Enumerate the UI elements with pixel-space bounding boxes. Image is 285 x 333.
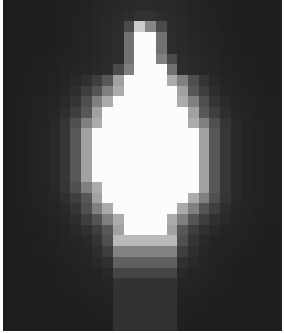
pixel-cell [188, 203, 199, 214]
pixel-cell [274, 310, 283, 321]
pixel-cell [17, 193, 28, 204]
pixel-cell [156, 107, 167, 118]
pixel-cell [263, 289, 274, 300]
pixel-cell [124, 107, 135, 118]
pixel-cell [252, 118, 263, 129]
pixel-cell [102, 11, 113, 22]
pixel-cell [81, 11, 92, 22]
pixel-cell [263, 0, 274, 11]
pixel-cell [27, 225, 38, 236]
pixel-cell [167, 268, 178, 279]
pixel-cell [188, 75, 199, 86]
pixel-cell [49, 235, 60, 246]
pixel-cell [27, 321, 38, 331]
pixel-cell [177, 54, 188, 65]
pixel-cell [113, 118, 124, 129]
pixel-cell [6, 225, 17, 236]
pixel-cell [188, 193, 199, 204]
pixel-cell [188, 118, 199, 129]
pixel-cell [134, 11, 145, 22]
pixel-cell [231, 54, 242, 65]
pixel-cell [145, 43, 156, 54]
pixel-cell [167, 128, 178, 139]
pixel-cell [124, 32, 135, 43]
pixel-cell [145, 21, 156, 32]
pixel-cell [60, 118, 71, 129]
pixel-cell [70, 11, 81, 22]
pixel-cell [49, 193, 60, 204]
pixel-cell [92, 257, 103, 268]
pixel-cell [49, 225, 60, 236]
pixel-cell [274, 203, 283, 214]
pixel-cell [167, 75, 178, 86]
pixel-cell [27, 257, 38, 268]
pixel-cell [263, 11, 274, 22]
pixel-cell [231, 86, 242, 97]
pixel-cell [199, 150, 210, 161]
pixel-cell [167, 257, 178, 268]
pixel-cell [252, 96, 263, 107]
pixel-cell [274, 193, 283, 204]
pixel-cell [199, 32, 210, 43]
pixel-cell [156, 300, 167, 311]
pixel-cell [27, 43, 38, 54]
pixel-cell [188, 64, 199, 75]
pixel-cell [49, 246, 60, 257]
pixel-cell [199, 246, 210, 257]
pixel-cell [177, 150, 188, 161]
pixel-cell [102, 289, 113, 300]
pixel-cell [274, 43, 283, 54]
pixel-cell [231, 64, 242, 75]
pixel-cell [60, 235, 71, 246]
pixel-cell [92, 246, 103, 257]
pixel-cell [177, 289, 188, 300]
pixel-cell [70, 193, 81, 204]
pixel-cell [134, 54, 145, 65]
pixel-cell [231, 246, 242, 257]
pixel-cell [92, 289, 103, 300]
pixel-cell [113, 193, 124, 204]
pixel-cell [38, 214, 49, 225]
pixel-cell [49, 128, 60, 139]
pixel-cell [231, 214, 242, 225]
pixel-cell [199, 310, 210, 321]
pixel-cell [70, 289, 81, 300]
pixel-cell [156, 118, 167, 129]
pixel-cell [156, 139, 167, 150]
pixel-cell [60, 43, 71, 54]
pixel-cell [220, 321, 231, 331]
pixel-cell [241, 139, 252, 150]
pixel-cell [188, 182, 199, 193]
pixel-cell [27, 107, 38, 118]
pixel-cell [49, 32, 60, 43]
pixel-cell [263, 268, 274, 279]
pixel-cell [241, 225, 252, 236]
pixel-cell [177, 96, 188, 107]
pixel-cell [220, 32, 231, 43]
pixel-cell [92, 214, 103, 225]
pixel-cell [17, 182, 28, 193]
pixel-cell [231, 96, 242, 107]
pixel-cell [134, 268, 145, 279]
pixel-cell [274, 75, 283, 86]
pixel-cell [199, 54, 210, 65]
pixel-cell [6, 64, 17, 75]
pixel-cell [17, 43, 28, 54]
pixel-cell [252, 289, 263, 300]
pixel-cell [199, 128, 210, 139]
pixel-cell [134, 139, 145, 150]
pixel-cell [220, 0, 231, 11]
pixel-cell [6, 118, 17, 129]
pixel-cell [274, 11, 283, 22]
pixel-cell [17, 225, 28, 236]
pixel-cell [38, 268, 49, 279]
pixel-cell [134, 214, 145, 225]
pixel-cell [156, 150, 167, 161]
pixel-cell [49, 11, 60, 22]
pixel-cell [156, 171, 167, 182]
pixel-cell [38, 54, 49, 65]
pixel-cell [167, 21, 178, 32]
pixel-cell [81, 300, 92, 311]
pixel-cell [134, 21, 145, 32]
pixel-cell [209, 225, 220, 236]
